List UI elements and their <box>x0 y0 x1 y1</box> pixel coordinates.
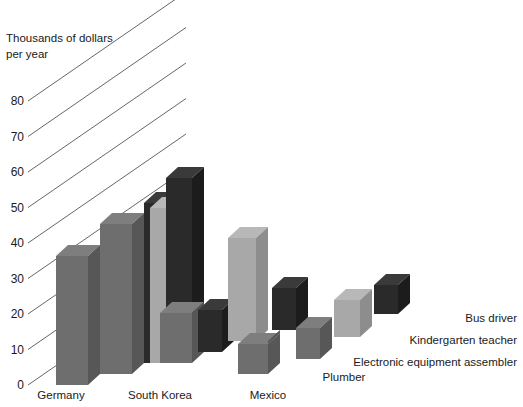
y-tick-50: 50 <box>11 201 25 215</box>
y-tick-30: 30 <box>11 272 25 286</box>
legend-label-kindergarten-teacher: Kindergarten teacher <box>410 334 518 346</box>
bar-mexico-kindergarten-teacher <box>228 227 268 341</box>
chart-container: 80 70 60 50 40 30 20 10 0 Thousands of d… <box>0 0 523 407</box>
category-label-mexico: Mexico <box>250 389 286 401</box>
legend-key-kindergarten-teacher <box>334 289 372 337</box>
y-axis-title-line1: Thousands of dollars <box>6 32 113 44</box>
category-label-south-korea: South Korea <box>128 389 193 401</box>
legend-label-bus-driver: Bus driver <box>465 312 517 324</box>
bar-chart-svg: 80 70 60 50 40 30 20 10 0 Thousands of d… <box>0 0 523 407</box>
bar-south-korea-bus-driver <box>160 302 204 363</box>
legend-key-bus-driver <box>296 317 332 359</box>
gridline-50 <box>28 99 186 208</box>
gridline-60 <box>28 63 186 172</box>
y-axis-title-line2: per year <box>6 48 48 60</box>
y-tick-10: 10 <box>11 343 25 357</box>
y-tick-20: 20 <box>11 307 25 321</box>
y-tick-0: 0 <box>17 378 24 392</box>
y-tick-40: 40 <box>11 236 25 250</box>
gridline-80 <box>28 0 186 101</box>
category-label-plumber: Plumber <box>323 371 366 383</box>
legend-label-electronic-equipment-assembler: Electronic equipment assembler <box>353 356 517 368</box>
bar-germany-bus-driver <box>56 245 100 385</box>
bar-germany-kindergarten-teacher <box>100 213 144 374</box>
y-tick-70: 70 <box>11 130 25 144</box>
y-tick-60: 60 <box>11 165 25 179</box>
legend: Bus driver Kindergarten teacher Electron… <box>353 312 517 368</box>
legend-key-electronic-equipment-assembler <box>374 274 410 314</box>
y-axis-ticks: 80 70 60 50 40 30 20 10 0 <box>11 94 25 392</box>
category-label-germany: Germany <box>37 389 85 401</box>
y-axis-title: Thousands of dollars per year <box>6 32 113 60</box>
y-tick-80: 80 <box>11 94 25 108</box>
